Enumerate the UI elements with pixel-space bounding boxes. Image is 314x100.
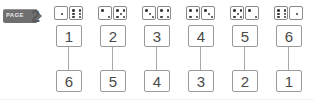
die-pip (79, 13, 81, 15)
page-badge-number: 2 (31, 7, 40, 26)
die-pip (196, 9, 198, 11)
page-badge-label: PAGE (6, 11, 34, 20)
worksheet-column: 61 (272, 0, 308, 100)
die-face-1 (54, 6, 68, 20)
die-pip (72, 13, 74, 15)
worksheet-column: 16 (52, 0, 88, 100)
connector-line (68, 47, 69, 70)
die-pip (240, 9, 242, 11)
die-pip (72, 16, 74, 18)
dice-pair (98, 6, 127, 20)
die-pip (167, 16, 169, 18)
number-box-bottom[interactable]: 6 (56, 70, 82, 92)
die-pip (189, 9, 191, 11)
number-box-bottom[interactable]: 4 (144, 70, 170, 92)
connector-line (244, 47, 245, 70)
number-box-bottom[interactable]: 1 (276, 70, 302, 92)
die-pip (101, 9, 103, 11)
die-pip (248, 9, 250, 11)
die-face-2 (245, 6, 259, 20)
die-face-1 (289, 6, 303, 20)
number-box-top[interactable]: 1 (56, 25, 82, 47)
number-box-top[interactable]: 3 (144, 25, 170, 47)
die-pip (79, 9, 81, 11)
connector-line (288, 47, 289, 70)
number-box-top[interactable]: 5 (232, 25, 258, 47)
die-face-6 (274, 6, 288, 20)
worksheet-column: 34 (140, 0, 176, 100)
die-pip (145, 9, 147, 11)
die-pip (211, 16, 213, 18)
die-pip (296, 13, 298, 15)
die-pip (277, 16, 279, 18)
bottom-divider (0, 99, 314, 100)
die-face-5 (230, 6, 244, 20)
worksheet-column: 43 (184, 0, 220, 100)
die-pip (79, 16, 81, 18)
worksheet-row: PAGE 2 162534435261 (0, 0, 314, 100)
die-pip (108, 16, 110, 18)
die-pip (116, 9, 118, 11)
die-pip (196, 16, 198, 18)
number-box-top[interactable]: 6 (276, 25, 302, 47)
die-face-2 (98, 6, 112, 20)
die-pip (233, 9, 235, 11)
die-face-5 (113, 6, 127, 20)
die-pip (237, 13, 239, 15)
die-pip (123, 16, 125, 18)
die-pip (277, 9, 279, 11)
die-face-3 (142, 6, 156, 20)
dice-pair (186, 6, 215, 20)
die-pip (167, 9, 169, 11)
die-pip (120, 13, 122, 15)
die-face-4 (157, 6, 171, 20)
die-pip (149, 13, 151, 15)
die-pip (116, 16, 118, 18)
connector-line (200, 47, 201, 70)
die-pip (72, 9, 74, 11)
dice-pair (54, 6, 83, 20)
connector-line (156, 47, 157, 70)
die-pip (255, 16, 257, 18)
die-pip (189, 16, 191, 18)
die-face-3 (201, 6, 215, 20)
number-box-bottom[interactable]: 3 (188, 70, 214, 92)
columns-container: 162534435261 (50, 0, 314, 100)
die-pip (277, 13, 279, 15)
number-box-top[interactable]: 2 (100, 25, 126, 47)
die-pip (284, 9, 286, 11)
connector-line (112, 47, 113, 70)
die-pip (233, 16, 235, 18)
die-pip (208, 13, 210, 15)
die-pip (284, 13, 286, 15)
dice-pair (230, 6, 259, 20)
number-box-top[interactable]: 4 (188, 25, 214, 47)
worksheet-column: 25 (96, 0, 132, 100)
page-badge: PAGE 2 (3, 8, 46, 25)
die-pip (160, 16, 162, 18)
die-pip (123, 9, 125, 11)
die-pip (204, 9, 206, 11)
die-pip (152, 16, 154, 18)
die-pip (284, 16, 286, 18)
number-box-bottom[interactable]: 5 (100, 70, 126, 92)
die-pip (160, 9, 162, 11)
die-face-6 (69, 6, 83, 20)
worksheet-column: 52 (228, 0, 264, 100)
die-face-4 (186, 6, 200, 20)
die-pip (240, 16, 242, 18)
dice-pair (274, 6, 303, 20)
die-pip (61, 13, 63, 15)
number-box-bottom[interactable]: 2 (232, 70, 258, 92)
dice-pair (142, 6, 171, 20)
